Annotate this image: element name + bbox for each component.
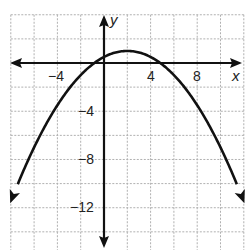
y-axis [99,15,109,248]
x-axis [10,58,242,68]
y-tick-label-neg4: −4 [78,103,94,119]
x-tick-label-8: 8 [193,68,201,84]
coordinate-plane: x y −4 4 8 −4 −8 −12 [0,0,250,250]
y-tick-label-neg12: −12 [70,199,94,215]
curve-right-arrow-icon [235,189,245,203]
x-axis-label: x [231,67,240,84]
x-tick-label-4: 4 [147,68,155,84]
y-tick-label-neg8: −8 [78,151,94,167]
curve-left-arrow-icon [10,189,20,203]
x-tick-label-neg4: −4 [48,68,64,84]
y-axis-label: y [109,11,119,28]
